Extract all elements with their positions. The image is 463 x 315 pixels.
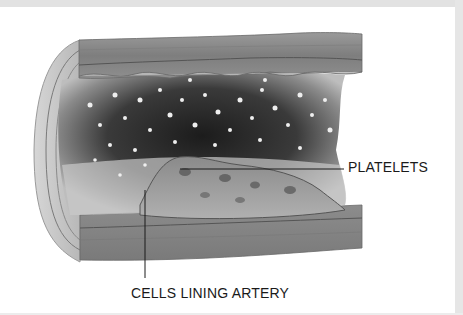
platelets-label: PLATELETS [348, 159, 428, 175]
artery-illustration [0, 0, 463, 315]
artery-top-wall [79, 33, 362, 79]
cells-lining-artery-label: CELLS LINING ARTERY [131, 285, 289, 301]
